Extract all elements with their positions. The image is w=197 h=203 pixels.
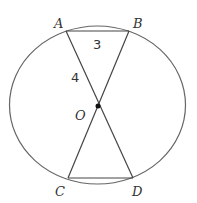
circle-diagram: A B O C D 3 4 <box>0 0 197 203</box>
label-a: A <box>53 16 63 31</box>
center-point-o <box>96 104 101 109</box>
measure-ab: 3 <box>93 37 101 52</box>
label-c: C <box>55 184 65 199</box>
label-d: D <box>131 184 143 199</box>
label-b: B <box>132 16 143 31</box>
measure-ao: 4 <box>71 70 79 85</box>
label-o: O <box>75 108 86 123</box>
